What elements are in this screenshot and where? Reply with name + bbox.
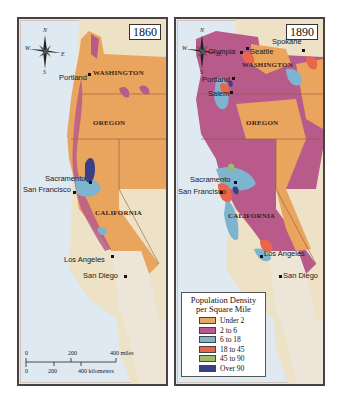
city-label-portland: Portland — [202, 75, 230, 84]
legend-item-45-to-90: 45 to 90 — [199, 354, 262, 364]
state-label-california: CALIFORNIA — [95, 209, 142, 217]
city-marker — [230, 91, 233, 94]
city-label-sacramento: Sacramento — [45, 174, 85, 183]
state-label-oregon: OREGON — [246, 119, 278, 127]
city-marker — [302, 49, 305, 52]
state-label-california: CALIFORNIA — [228, 212, 275, 220]
state-label-washington: WASHINGTON — [242, 61, 293, 69]
city-label-salem: Salem — [208, 89, 229, 98]
city-marker — [89, 181, 92, 184]
city-marker — [124, 275, 127, 278]
city-marker — [240, 51, 243, 54]
legend-swatch — [199, 317, 216, 324]
map-year-label: 1860 — [129, 24, 161, 40]
city-label-portland: Portland — [59, 73, 87, 82]
city-label-san-francisco: San Francisco — [23, 185, 71, 194]
map-1860: 1860 N S E W WASHINGTON OREGON CALIFORNI… — [17, 17, 168, 386]
legend-swatch — [199, 327, 216, 334]
legend-item-6-to-18: 6 to 18 — [199, 335, 262, 345]
city-marker — [232, 77, 235, 80]
city-marker — [260, 255, 263, 258]
city-label-olympia: Olympia — [208, 47, 236, 56]
city-marker — [246, 47, 249, 50]
legend-swatch — [199, 355, 216, 362]
legend-swatch — [199, 365, 216, 372]
city-label-sacramento: Sacramento — [190, 175, 230, 184]
legend-item-2-to-6: 2 to 6 — [199, 326, 262, 336]
legend-item-18-to-45: 18 to 45 — [199, 345, 262, 355]
city-label-los-angeles: Los Angeles — [264, 249, 305, 258]
city-label-san-francisco: San Francisco — [178, 187, 226, 196]
city-marker — [88, 73, 91, 76]
city-label-san-diego: San Diego — [283, 271, 318, 280]
legend-item-under-2: Under 2 — [199, 316, 262, 326]
city-label-spokane: Spokane — [272, 37, 302, 46]
state-label-oregon: OREGON — [93, 119, 125, 127]
map-legend: Population Density per Square Mile Under… — [181, 292, 266, 377]
city-marker — [279, 275, 282, 278]
compass-rose-icon: N S E W — [25, 27, 65, 77]
city-label-san-diego: San Diego — [83, 271, 118, 280]
legend-swatch — [199, 336, 216, 343]
legend-item-over-90: Over 90 — [199, 364, 262, 374]
city-marker — [73, 191, 76, 194]
state-label-washington: WASHINGTON — [93, 69, 144, 77]
city-marker — [111, 255, 114, 258]
city-label-los-angeles: Los Angeles — [64, 255, 105, 264]
city-marker — [234, 181, 237, 184]
map-1890: 1890 N S E W WASHINGTON OREGON CALIFORNI… — [174, 17, 325, 386]
city-label-seattle: Seattle — [250, 47, 273, 56]
map-scale-bar: 0 200 400 miles 0 200 400 kilometers — [24, 350, 134, 376]
legend-title: Population Density per Square Mile — [185, 296, 262, 313]
legend-swatch — [199, 346, 216, 353]
